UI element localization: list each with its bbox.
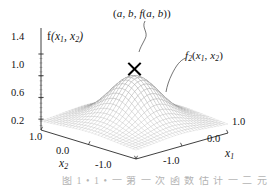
z-tick-0.6: 0.6 [11, 88, 24, 99]
x2-axis-label: x2 [59, 158, 68, 171]
x2-tick--1.0: -1.0 [95, 160, 112, 171]
peak-marker-x-icon [128, 63, 140, 75]
z-tick-1.4: 1.4 [11, 32, 24, 43]
figure-caption-strip: 图 1 • 1 • 一 第 一 次 函 数 估 计 一 二 元 斯 函 数 [0, 176, 269, 188]
z-tick-0.2: 0.2 [11, 116, 24, 127]
surface-plot-figure: f(x1, x2) 1.4 1.0 0.6 0.2 x2 1.0 0.0 -1.… [0, 0, 269, 188]
x1-tick--1.0: -1.0 [163, 156, 180, 167]
figure-caption-text: 图 1 • 1 • 一 第 一 次 函 数 估 计 一 二 元 斯 函 数 [62, 176, 269, 187]
z-axis-label: f(x1, x2) [47, 31, 83, 44]
surface-function-annotation: f2(x1, x2) [185, 50, 223, 62]
x2-tick-0.0: 0.0 [56, 146, 69, 157]
x1-tick-1.0: 1.0 [232, 117, 245, 128]
x2-tick-1.0: 1.0 [29, 132, 42, 143]
x1-axis-label: x1 [225, 148, 234, 161]
peak-point-annotation: (a, b, f(a, b)) [113, 8, 171, 19]
x1-tick-0.0: 0.0 [207, 134, 220, 145]
z-tick-1.0: 1.0 [11, 60, 24, 71]
